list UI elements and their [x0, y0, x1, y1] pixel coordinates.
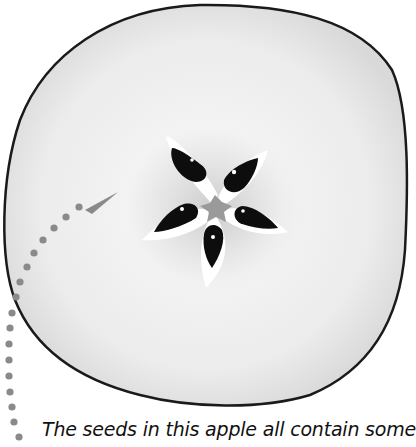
caption: The seeds in this apple all contain some	[42, 418, 416, 440]
